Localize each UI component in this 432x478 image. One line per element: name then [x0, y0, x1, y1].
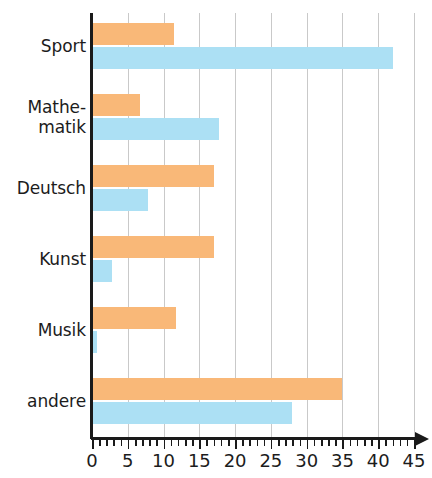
x-tick-minor [407, 439, 409, 446]
gridline [271, 13, 272, 437]
x-tick-minor [192, 439, 194, 446]
x-tick-minor [149, 439, 151, 446]
plot-area [92, 13, 414, 437]
category-label-kunst: Kunst [0, 249, 86, 269]
x-tick-minor [385, 439, 387, 446]
x-tick-label-0: 0 [72, 450, 112, 471]
x-tick-minor [350, 439, 352, 446]
x-tick-minor [328, 439, 330, 446]
x-tick-major [414, 439, 416, 449]
bar-mathematik-orange [92, 94, 140, 116]
gridline [414, 13, 415, 437]
bar-kunst-orange [92, 236, 214, 258]
bar-chart: SportMathe-matikDeutschKunstMusikandere … [0, 0, 432, 478]
x-tick-minor [335, 439, 337, 446]
x-tick-minor [264, 439, 266, 446]
x-tick-minor [135, 439, 137, 446]
bar-andere-orange [92, 378, 342, 400]
x-tick-major [307, 439, 309, 449]
x-tick-major [164, 439, 166, 449]
x-tick-minor [242, 439, 244, 446]
x-tick-major [378, 439, 380, 449]
category-label-line: Deutsch [0, 178, 86, 198]
bar-musik-blue [92, 331, 97, 353]
x-tick-minor [400, 439, 402, 446]
x-tick-minor [278, 439, 280, 446]
x-tick-major [128, 439, 130, 449]
category-label-mathematik: Mathe-matik [0, 97, 86, 137]
x-tick-label-30: 30 [287, 450, 327, 471]
x-tick-major [199, 439, 201, 449]
x-tick-label-45: 45 [394, 450, 432, 471]
x-tick-major [271, 439, 273, 449]
x-tick-minor [156, 439, 158, 446]
x-tick-minor [285, 439, 287, 446]
x-tick-label-10: 10 [144, 450, 184, 471]
bar-sport-blue [92, 47, 393, 69]
x-tick-minor [257, 439, 259, 446]
x-tick-minor [357, 439, 359, 446]
bar-kunst-blue [92, 260, 112, 282]
x-tick-minor [393, 439, 395, 446]
category-label-line: Musik [0, 320, 86, 340]
x-tick-minor [113, 439, 115, 446]
category-label-andere: andere [0, 391, 86, 411]
category-label-musik: Musik [0, 320, 86, 340]
x-tick-label-40: 40 [358, 450, 398, 471]
category-label-line: Sport [0, 36, 86, 56]
x-tick-minor [292, 439, 294, 446]
bar-sport-orange [92, 23, 174, 45]
x-tick-label-25: 25 [251, 450, 291, 471]
category-axis-labels: SportMathe-matikDeutschKunstMusikandere [0, 0, 86, 478]
bar-deutsch-orange [92, 165, 214, 187]
x-tick-minor [142, 439, 144, 446]
x-tick-minor [185, 439, 187, 446]
x-tick-label-15: 15 [179, 450, 219, 471]
x-tick-minor [364, 439, 366, 446]
x-tick-minor [171, 439, 173, 446]
x-axis-line [91, 437, 418, 440]
category-label-line: andere [0, 391, 86, 411]
gridline [342, 13, 343, 437]
x-tick-major [92, 439, 94, 449]
category-label-sport: Sport [0, 36, 86, 56]
gridline [199, 13, 200, 437]
category-label-line: Kunst [0, 249, 86, 269]
x-tick-minor [249, 439, 251, 446]
x-axis-arrow-icon [415, 432, 429, 446]
category-label-line: matik [0, 117, 86, 137]
x-tick-label-5: 5 [108, 450, 148, 471]
category-label-deutsch: Deutsch [0, 178, 86, 198]
gridline [164, 13, 165, 437]
x-tick-label-20: 20 [215, 450, 255, 471]
x-tick-minor [214, 439, 216, 446]
x-tick-minor [221, 439, 223, 446]
category-label-line: Mathe- [0, 97, 86, 117]
x-tick-minor [178, 439, 180, 446]
x-tick-label-35: 35 [322, 450, 362, 471]
x-tick-minor [106, 439, 108, 446]
gridline [128, 13, 129, 437]
bar-andere-blue [92, 402, 292, 424]
bar-musik-orange [92, 307, 176, 329]
x-tick-minor [300, 439, 302, 446]
bar-deutsch-blue [92, 189, 148, 211]
gridline [307, 13, 308, 437]
x-tick-major [342, 439, 344, 449]
x-tick-major [235, 439, 237, 449]
x-tick-minor [206, 439, 208, 446]
x-tick-minor [99, 439, 101, 446]
x-tick-minor [321, 439, 323, 446]
y-axis-line [90, 13, 93, 439]
x-tick-minor [228, 439, 230, 446]
x-tick-minor [371, 439, 373, 446]
gridline [378, 13, 379, 437]
gridline [235, 13, 236, 437]
x-tick-minor [121, 439, 123, 446]
bar-mathematik-blue [92, 118, 219, 140]
x-tick-minor [314, 439, 316, 446]
